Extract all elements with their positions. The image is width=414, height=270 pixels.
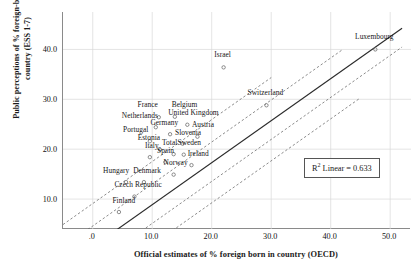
data-point-label: Czech Republic bbox=[114, 180, 162, 189]
data-point-label: Norway bbox=[164, 158, 188, 167]
data-point-label: Finland bbox=[112, 196, 135, 205]
scatter-plot-figure: Public perceptions of % foreign-born in … bbox=[0, 0, 414, 270]
r-squared-annotation: R2 Linear = 0.633 bbox=[304, 158, 380, 178]
r-squared-text: Linear = 0.633 bbox=[321, 164, 372, 173]
data-point-label: Switzerland bbox=[248, 88, 284, 97]
data-point-label: Slovenia bbox=[175, 128, 201, 137]
data-point-label: Israel bbox=[214, 50, 231, 59]
data-point-marker bbox=[182, 153, 185, 156]
y-axis-title-line1: Public perceptions of % foreign-born in bbox=[12, 0, 23, 149]
y-axis-tick-label: 20.0 bbox=[17, 145, 57, 154]
y-axis-title-line2: country (ESS 1-7) bbox=[22, 0, 33, 149]
data-point-label: France bbox=[137, 100, 157, 109]
data-point-marker bbox=[168, 133, 171, 136]
y-axis-title: Public perceptions of % foreign-born in … bbox=[12, 0, 33, 149]
data-point-label: Ireland bbox=[188, 149, 209, 158]
data-point-marker bbox=[148, 155, 151, 158]
data-point-label: Sweden bbox=[177, 138, 201, 147]
x-axis-tick-label: 30.0 bbox=[248, 232, 292, 241]
data-point-label: United Kingdom bbox=[168, 108, 218, 117]
x-axis-tick-label: 50.0 bbox=[367, 232, 411, 241]
y-axis-tick-label: 10.0 bbox=[17, 195, 57, 204]
y-axis-tick-label: 40.0 bbox=[17, 45, 57, 54]
data-point-label: Luxembourg bbox=[355, 32, 393, 41]
data-point-marker bbox=[265, 104, 268, 107]
data-point-marker bbox=[190, 163, 193, 166]
x-axis-tick-label: .0 bbox=[70, 232, 114, 241]
data-point-label: Germany bbox=[150, 118, 178, 127]
data-point-label: Denmark bbox=[133, 166, 161, 175]
x-axis-tick-label: 40.0 bbox=[308, 232, 352, 241]
data-point-marker bbox=[172, 173, 175, 176]
data-point-label: Hungary bbox=[103, 166, 129, 175]
data-point-marker bbox=[117, 210, 120, 213]
data-point-marker bbox=[222, 66, 225, 69]
data-point-label: Spain bbox=[157, 146, 174, 155]
x-axis-title: Official estimates of % foreign born in … bbox=[62, 250, 410, 259]
y-axis-tick-label: 30.0 bbox=[17, 95, 57, 104]
x-axis-tick-label: 10.0 bbox=[129, 232, 173, 241]
x-axis-tick-label: 20.0 bbox=[189, 232, 233, 241]
data-point-marker bbox=[186, 123, 189, 126]
